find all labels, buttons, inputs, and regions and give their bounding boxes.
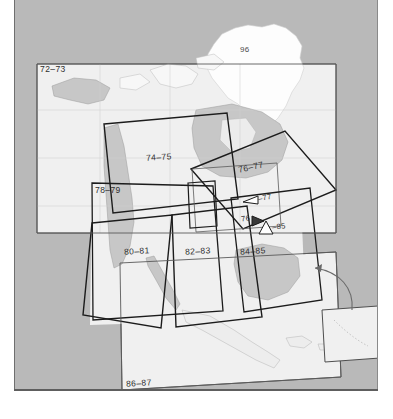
label-callout-85: –85 [271, 221, 286, 232]
label-78-79: 78–79 [95, 185, 121, 195]
label-callout-76: 76 [240, 213, 250, 223]
label-80-81: 80–81 [124, 245, 150, 256]
caribbean-inset-box[interactable] [322, 306, 380, 362]
label-86-87: 86–87 [126, 377, 152, 388]
label-82-83: 82–83 [185, 245, 211, 256]
atlas-index-page: 72–73 96 74–75 76–77 78–79 –77 76 –85 80… [0, 0, 393, 419]
label-84-85: 84–85 [240, 245, 266, 256]
label-96: 96 [240, 45, 250, 54]
index-map-graphic [0, 0, 393, 419]
label-72-73: 72–73 [40, 64, 66, 74]
label-74-75: 74–75 [146, 151, 172, 162]
